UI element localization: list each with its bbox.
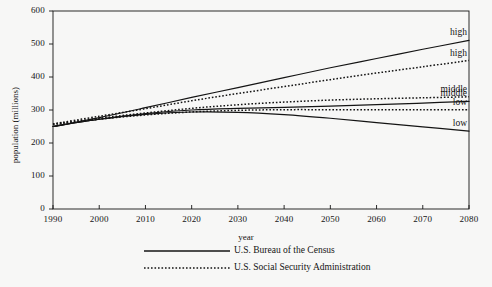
x-axis-tick-label: 1990 — [33, 214, 73, 224]
x-axis-title: year — [211, 232, 281, 242]
x-axis-tick-label: 2010 — [125, 214, 165, 224]
y-axis-tick-label: 0 — [5, 203, 45, 213]
x-axis-tick-label: 2020 — [172, 214, 212, 224]
legend-label: U.S. Bureau of the Census — [234, 245, 335, 255]
x-axis-tick-label: 2000 — [79, 214, 119, 224]
chart-canvas — [0, 0, 492, 287]
y-axis-tick-label: 300 — [5, 104, 45, 114]
x-axis-tick-label: 2080 — [449, 214, 489, 224]
series-line — [53, 97, 469, 124]
series-line — [53, 61, 469, 124]
series-end-label-low: low — [427, 118, 467, 128]
y-axis-tick-label: 500 — [5, 38, 45, 48]
x-axis-tick-label: 2040 — [264, 214, 304, 224]
y-axis-tick-label: 200 — [5, 137, 45, 147]
x-axis-tick-label: 2050 — [310, 214, 350, 224]
series-end-label-high: high — [427, 48, 467, 58]
x-axis-tick-label: 2030 — [218, 214, 258, 224]
x-axis-tick-label: 2070 — [403, 214, 443, 224]
series-end-label-high: high — [427, 27, 467, 37]
y-axis-title: population (millions) — [10, 70, 20, 180]
population-projection-chart: population (millions) year 0100200300400… — [0, 0, 492, 287]
series-end-label-low: low — [427, 97, 467, 107]
y-axis-tick-label: 100 — [5, 170, 45, 180]
y-axis-tick-label: 400 — [5, 71, 45, 81]
x-axis-tick-label: 2060 — [357, 214, 397, 224]
y-axis-tick-label: 600 — [5, 5, 45, 15]
legend-label: U.S. Social Security Administration — [234, 262, 370, 272]
